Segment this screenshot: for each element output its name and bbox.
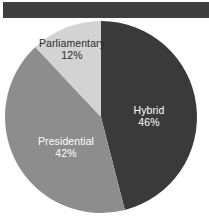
pie-label-presidential-name: Presidential — [26, 135, 106, 147]
pie-label-hybrid-name: Hybrid — [116, 104, 182, 116]
pie-label-parliamentary-value: 12% — [33, 49, 111, 61]
pie-label-hybrid-value: 46% — [116, 116, 182, 128]
top-banner-bar — [3, 2, 209, 18]
pie-label-parliamentary: Parliamentary 12% — [33, 37, 111, 62]
chart-plot-area: Hybrid 46% Presidential 42% Parliamentar… — [0, 18, 209, 220]
pie-label-presidential: Presidential 42% — [26, 135, 106, 160]
pie-label-presidential-value: 42% — [26, 147, 106, 159]
pie-label-parliamentary-name: Parliamentary — [33, 37, 111, 49]
pie-chart-figure: Hybrid 46% Presidential 42% Parliamentar… — [0, 0, 209, 220]
pie-label-hybrid: Hybrid 46% — [116, 104, 182, 129]
